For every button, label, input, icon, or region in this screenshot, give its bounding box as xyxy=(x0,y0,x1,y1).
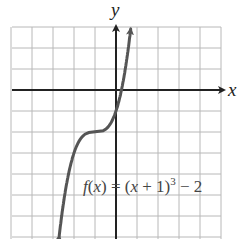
function-graph: x y f(x) = (x + 1)3 − 2 xyxy=(0,0,251,239)
y-axis-label: y xyxy=(109,0,120,20)
function-label: f(x) = (x + 1)3 − 2 xyxy=(83,175,202,196)
x-axis-label: x xyxy=(227,79,237,100)
